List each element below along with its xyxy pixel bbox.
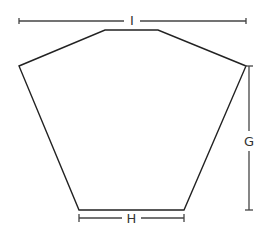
dimension-height: G [244,66,254,210]
hexagon-shape [19,30,246,210]
height-label: G [244,134,254,149]
base-label: H [127,211,137,226]
dimension-base: H [79,211,184,226]
dimension-width: I [19,13,246,28]
diagram-canvas: I H G [0,0,270,236]
width-label: I [130,13,134,28]
